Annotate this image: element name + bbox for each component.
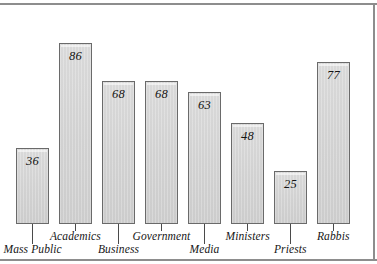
axis-label-academics: Academics bbox=[50, 230, 101, 242]
bar-chart: 3686686863482577 Mass PublicAcademicsBus… bbox=[0, 0, 377, 264]
axis-tick-media bbox=[204, 224, 205, 244]
axis-tick-priests bbox=[290, 224, 291, 244]
bar-value-media: 63 bbox=[188, 98, 221, 113]
frame-right-rule bbox=[373, 3, 375, 261]
bar-rabbis bbox=[317, 62, 350, 224]
axis-tick-business bbox=[118, 224, 119, 244]
axis-label-media: Media bbox=[190, 243, 220, 255]
axis-label-priests: Priests bbox=[274, 243, 307, 255]
bar-highlight bbox=[147, 83, 176, 85]
bar-highlight bbox=[276, 173, 305, 175]
bar-business bbox=[102, 81, 135, 224]
axis-label-rabbis: Rabbis bbox=[317, 230, 350, 242]
frame-bottom-rule bbox=[0, 259, 377, 261]
bar-value-ministers: 48 bbox=[231, 129, 264, 144]
bar-value-mass-public: 36 bbox=[16, 154, 49, 169]
plot-area: 3686686863482577 bbox=[0, 5, 373, 224]
bar-highlight bbox=[233, 125, 262, 127]
bar-highlight bbox=[319, 64, 348, 66]
bar-value-priests: 25 bbox=[274, 177, 307, 192]
bar-value-government: 68 bbox=[145, 87, 178, 102]
axis-tick-mass-public bbox=[32, 224, 33, 244]
axis-label-mass-public: Mass Public bbox=[4, 243, 62, 255]
bar-academics bbox=[59, 43, 92, 224]
bar-government bbox=[145, 81, 178, 224]
bar-highlight bbox=[18, 150, 47, 152]
bar-highlight bbox=[104, 83, 133, 85]
bar-value-business: 68 bbox=[102, 87, 135, 102]
bar-highlight bbox=[61, 45, 90, 47]
axis-label-business: Business bbox=[98, 243, 139, 255]
bar-value-academics: 86 bbox=[59, 49, 92, 64]
bar-value-rabbis: 77 bbox=[317, 68, 350, 83]
axis-label-ministers: Ministers bbox=[226, 230, 270, 242]
bar-highlight bbox=[190, 94, 219, 96]
axis-label-government: Government bbox=[133, 230, 191, 242]
